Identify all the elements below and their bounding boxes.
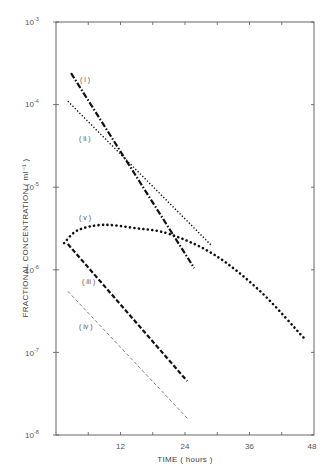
y-axis-ticks [53,22,314,435]
curve-label-v: ( v ) [79,214,91,222]
curve-label-iii: ( iii ) [82,278,95,286]
curve-label-iv: ( iv ) [79,323,93,331]
curve-label-ii: ( ii ) [79,135,91,143]
y-tick-label: 10-3 [25,16,39,27]
x-axis-ticks [88,22,282,435]
curve-iv [68,291,188,419]
curve-i [71,73,194,268]
y-tick-label: 10-8 [25,429,39,440]
chart: 10-3 10-4 10-5 10-6 10-7 10-8 12 24 36 4… [0,0,330,475]
y-tick-label: 10-7 [25,347,39,358]
curves [64,73,304,419]
x-tick-label: 12 [116,442,125,451]
plot-frame [56,22,314,435]
curve-label-i: ( i ) [80,76,90,84]
y-tick-label: 10-4 [25,98,39,109]
curve-iii [68,244,187,381]
x-tick-label: 36 [245,442,254,451]
curve-ii [68,101,212,246]
x-axis-title: TIME ( hours ) [157,455,212,464]
y-axis-title: FRACTIONAL CONCENTRATION ( ml⁻¹ ) [21,159,30,318]
x-tick-label: 48 [308,442,317,451]
curve-labels: ( i ) ( ii ) ( iii ) ( iv ) ( v ) [79,76,95,331]
x-tick-label: 24 [181,442,190,451]
x-tick-labels: 12 24 36 48 [116,442,317,451]
